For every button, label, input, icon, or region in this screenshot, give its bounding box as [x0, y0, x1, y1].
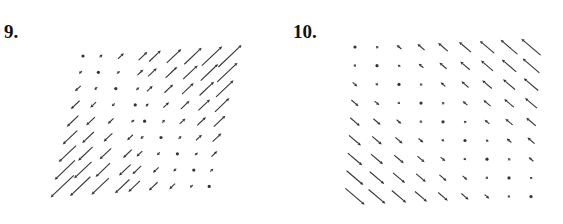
- vector-arrow: [376, 46, 379, 49]
- vector-arrow: [463, 139, 466, 142]
- vector-arrow: [485, 158, 488, 161]
- vector-arrow: [420, 83, 423, 86]
- vector-arrow: [507, 195, 510, 198]
- vector-arrow: [351, 100, 358, 106]
- vector-arrow: [398, 65, 401, 68]
- vector-arrow: [372, 136, 382, 144]
- vector-arrow: [441, 139, 444, 142]
- vector-arrow: [502, 60, 516, 72]
- vector-arrow: [353, 64, 356, 67]
- vector-arrow: [439, 175, 446, 181]
- vector-arrow: [463, 176, 468, 180]
- vector-field-plot-10: [0, 0, 563, 224]
- vector-arrow: [417, 44, 424, 50]
- vector-arrow: [441, 82, 446, 86]
- vector-arrow: [480, 41, 494, 53]
- vector-arrow: [348, 153, 362, 165]
- vector-arrow: [523, 59, 540, 73]
- vector-arrow: [459, 42, 471, 52]
- vector-arrow: [419, 120, 422, 123]
- vector-arrow: [353, 45, 356, 48]
- vector-arrow: [464, 121, 467, 124]
- vector-arrow: [349, 135, 361, 145]
- vector-arrow: [439, 63, 446, 69]
- vector-arrow: [397, 83, 400, 86]
- vector-arrow: [369, 189, 386, 203]
- vector-arrow: [461, 194, 468, 200]
- vector-arrow: [481, 61, 493, 71]
- vector-arrow: [501, 40, 518, 54]
- vector-arrow: [505, 119, 512, 125]
- vector-arrow: [442, 102, 445, 105]
- vector-arrow: [419, 138, 424, 142]
- vector-arrow: [419, 64, 424, 68]
- vector-arrow: [370, 172, 384, 184]
- vector-arrow: [521, 39, 540, 55]
- vector-arrow: [463, 158, 466, 161]
- vector-arrow: [345, 188, 364, 204]
- vector-arrow: [529, 157, 534, 161]
- vector-arrow: [395, 137, 402, 143]
- vector-arrow: [485, 120, 490, 124]
- vector-arrow: [416, 174, 426, 182]
- vector-arrow: [375, 101, 380, 105]
- vector-arrow: [463, 101, 468, 105]
- vector-arrow: [524, 78, 538, 90]
- vector-arrow: [397, 45, 402, 49]
- vector-arrow: [373, 119, 380, 125]
- vector-arrow: [507, 138, 512, 142]
- vector-arrow: [347, 171, 364, 185]
- vector-arrow: [485, 176, 488, 179]
- vector-arrow: [460, 62, 470, 70]
- vector-arrow: [482, 80, 492, 88]
- vector-arrow: [530, 177, 533, 180]
- vector-arrow: [415, 192, 427, 202]
- vector-arrow: [419, 102, 422, 105]
- vector-arrow: [461, 81, 468, 87]
- vector-arrow: [375, 83, 378, 86]
- vector-arrow: [525, 98, 537, 108]
- vector-arrow: [504, 99, 514, 107]
- vector-arrow: [529, 195, 532, 198]
- vector-arrow: [486, 139, 489, 142]
- vector-arrow: [483, 100, 490, 106]
- vector-arrow: [526, 118, 536, 126]
- vector-arrow: [417, 156, 424, 162]
- vector-arrow: [438, 43, 448, 51]
- vector-arrow: [503, 79, 515, 89]
- vector-arrow: [353, 82, 358, 86]
- vector-arrow: [441, 120, 444, 123]
- vector-arrow: [438, 193, 448, 201]
- vector-arrow: [392, 190, 406, 202]
- vector-arrow: [508, 158, 511, 161]
- vector-arrow: [441, 157, 446, 161]
- vector-arrow: [507, 176, 510, 179]
- vector-arrow: [397, 101, 400, 104]
- vector-arrow: [485, 195, 490, 199]
- vector-arrow: [397, 120, 402, 124]
- vector-arrow: [394, 155, 404, 163]
- vector-arrow: [393, 173, 405, 183]
- vector-arrow: [350, 118, 360, 126]
- vector-arrow: [527, 137, 534, 143]
- vector-arrow: [371, 154, 383, 164]
- vector-arrow: [375, 64, 378, 67]
